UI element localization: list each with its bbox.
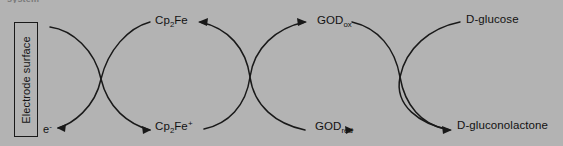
cp2fe-plus-base: Cp <box>155 120 170 132</box>
electron-charge: - <box>49 122 52 131</box>
cp2fe-plus-tail: Fe <box>174 120 188 132</box>
species-label-d-gluconolactone: D-gluconolactone <box>457 120 548 132</box>
god-red-base: GOD <box>315 120 342 132</box>
species-label-electron: e- <box>43 124 52 135</box>
biosensor-cycle-figure: system Electrode surface e- Cp2Fe Cp2 <box>0 0 563 146</box>
electrode-surface-label: Electrode surface <box>20 36 32 123</box>
arc-god-red-to-lactone <box>352 22 445 129</box>
arrowhead-to-god-ox <box>297 18 307 26</box>
species-label-cp2fe: Cp2Fe <box>155 15 188 27</box>
god-ox-base: GOD <box>317 14 344 26</box>
cp2fe-sub: 2 <box>170 20 174 29</box>
arc-glucose-to-god-ox <box>399 22 460 130</box>
species-label-god-red: GODred <box>315 121 353 133</box>
god-red-sub: red <box>342 126 353 135</box>
cp2fe-base: Cp <box>155 14 170 26</box>
god-ox-sub: ox <box>344 20 352 29</box>
species-label-d-glucose: D-glucose <box>466 14 519 26</box>
cp2fe-plus-charge: + <box>188 119 193 128</box>
arc-electrode-to-cp2fe <box>50 27 150 130</box>
cp2fe-tail: Fe <box>174 14 188 26</box>
arrowhead-to-lactone <box>442 126 452 134</box>
species-label-cp2fe-plus: Cp2Fe+ <box>155 121 193 133</box>
cp2fe-plus-sub: 2 <box>170 126 174 135</box>
arc-cp2fe-plus-to-electron <box>58 22 150 128</box>
arrowhead-to-cp2fe-plus <box>142 126 151 134</box>
arc-god-red-to-cp2fe <box>204 22 305 129</box>
arrowhead-to-cp2fe <box>198 18 208 26</box>
species-label-god-ox: GODox <box>317 15 352 27</box>
arrowhead-to-electron <box>57 124 66 132</box>
electrode-surface-box: Electrode surface <box>14 22 38 137</box>
arc-cp2fe-to-god <box>200 22 305 130</box>
